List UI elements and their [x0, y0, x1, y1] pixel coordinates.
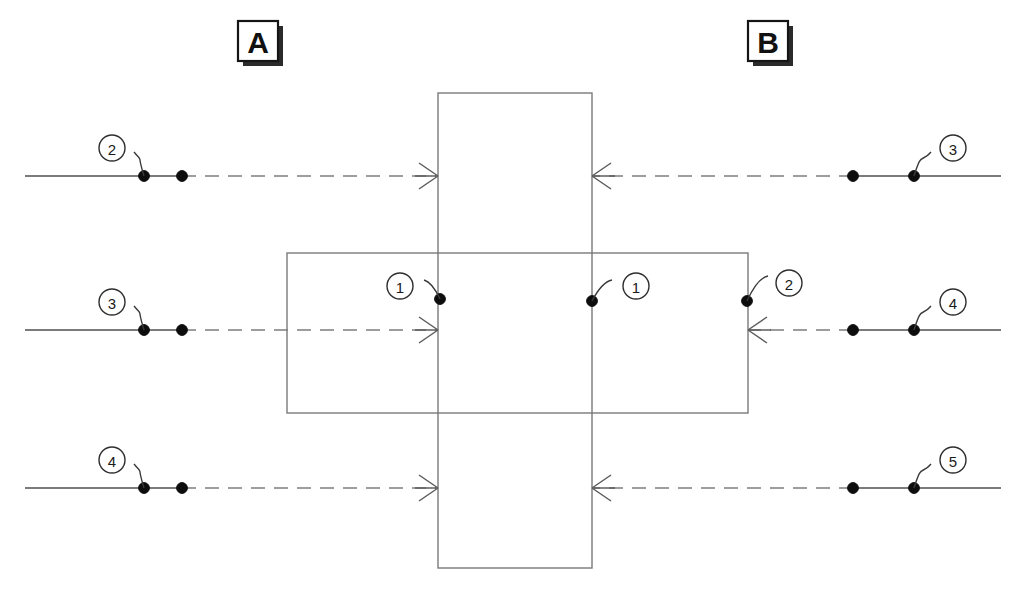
balloon-label: 1	[396, 279, 404, 296]
row-top-right-dot-1	[848, 171, 859, 182]
arrow-barb-upper	[419, 475, 438, 488]
callout-inner-left[interactable]: 1	[387, 273, 413, 299]
diagram-svg: 233445112 AB	[0, 0, 1026, 590]
row-top-left-leader	[134, 152, 144, 176]
horizontal-part	[287, 253, 748, 413]
arrow-barb-upper	[748, 317, 767, 330]
balloon-label: 2	[785, 276, 793, 293]
arrow-barb-lower	[419, 330, 438, 343]
arrow-bottom-left	[415, 475, 438, 501]
row-bottom-left-leader	[134, 464, 144, 488]
diagram-canvas: 233445112 AB	[0, 0, 1026, 590]
arrow-barb-lower	[748, 330, 767, 343]
arrow-barb-lower	[592, 176, 611, 189]
row-top-right-balloon[interactable]: 3	[940, 135, 966, 161]
row-bottom-left-balloon[interactable]: 4	[99, 447, 125, 473]
direction-arrows-group	[415, 163, 771, 501]
arrow-barb-lower	[419, 488, 438, 501]
zone-a: A	[238, 21, 283, 66]
row-middle-left-balloon[interactable]: 3	[99, 289, 125, 315]
balloon-label: 3	[949, 141, 957, 158]
balloon-label: 2	[108, 141, 116, 158]
row-middle-left-dot-2	[177, 325, 188, 336]
arrow-bottom-right	[592, 475, 615, 501]
zone-letter: B	[757, 26, 779, 59]
row-bottom-right-balloon[interactable]: 5	[940, 447, 966, 473]
arrow-barb-lower	[419, 176, 438, 189]
balloon-label: 4	[108, 453, 116, 470]
balloon-callouts-group: 233445112	[99, 135, 966, 488]
vertical-part	[438, 93, 592, 568]
node-dots-group	[139, 171, 920, 494]
balloon-label: 4	[949, 295, 957, 312]
callout-edge-right[interactable]: 2	[776, 270, 802, 296]
row-top-left-dot-2	[177, 171, 188, 182]
zone-labels-group: AB	[238, 21, 793, 66]
balloon-label: 1	[632, 279, 640, 296]
row-bottom-left-dot-2	[177, 483, 188, 494]
balloon-label: 3	[108, 295, 116, 312]
arrow-barb-upper	[419, 317, 438, 330]
callout-inner-right[interactable]: 1	[623, 273, 649, 299]
arrow-middle-left	[415, 317, 438, 343]
arrow-barb-upper	[592, 475, 611, 488]
row-middle-right-dot-1	[848, 325, 859, 336]
row-top-left-balloon[interactable]: 2	[99, 135, 125, 161]
row-middle-left-leader	[134, 306, 144, 330]
arrow-barb-upper	[592, 163, 611, 176]
arrow-barb-lower	[592, 488, 611, 501]
balloon-label: 5	[949, 453, 957, 470]
row-bottom-right-dot-1	[848, 483, 859, 494]
arrow-top-left	[415, 163, 438, 189]
arrow-barb-upper	[419, 163, 438, 176]
row-middle-right-balloon[interactable]: 4	[940, 289, 966, 315]
zone-b: B	[748, 21, 793, 66]
arrow-middle-right	[748, 317, 771, 343]
arrow-top-right	[592, 163, 615, 189]
zone-letter: A	[247, 26, 269, 59]
